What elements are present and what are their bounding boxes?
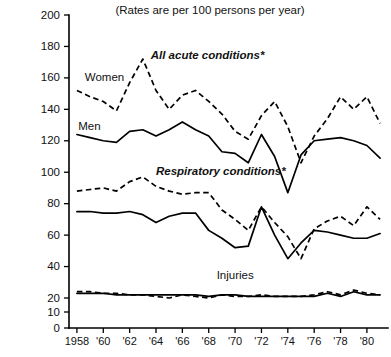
x-tick-label: '70 (228, 335, 242, 347)
chart-canvas: (Rates are per 100 persons per year) 010… (0, 0, 391, 357)
x-tick-label: '68 (202, 335, 216, 347)
y-tick-label: 180 (41, 40, 60, 52)
chart-annotation: Injuries (217, 269, 254, 281)
x-tick-label: 1958 (65, 335, 89, 347)
x-tick-label: '78 (333, 335, 347, 347)
y-tick-label: 20 (47, 292, 60, 304)
y-tick-label: 160 (41, 71, 60, 83)
x-tick-label: '76 (307, 335, 321, 347)
y-tick-label: 10 (47, 306, 60, 318)
y-tick-label: 0 (54, 322, 60, 334)
y-tick-label: 40 (47, 260, 60, 272)
chart-annotation: All acute conditions* (150, 49, 265, 61)
y-tick-label: 140 (41, 103, 60, 115)
chart-title: (Rates are per 100 persons per year) (115, 4, 304, 16)
acute-conditions-line-chart: (Rates are per 100 persons per year) 010… (0, 0, 391, 357)
y-tick-label: 200 (41, 9, 60, 21)
chart-annotation: Men (78, 120, 100, 132)
y-tick-label: 100 (41, 166, 60, 178)
x-tick-label: '64 (149, 335, 163, 347)
x-tick-label: '62 (122, 335, 136, 347)
x-tick-label: '72 (254, 335, 268, 347)
y-tick-label: 60 (47, 229, 60, 241)
chart-annotation: Respiratory conditions* (156, 165, 286, 177)
x-tick-label: '66 (175, 335, 189, 347)
y-tick-label: 80 (47, 197, 60, 209)
x-tick-label: '74 (281, 335, 295, 347)
x-tick-label: '60 (96, 335, 110, 347)
x-tick-label: '80 (360, 335, 374, 347)
y-tick-label: 120 (41, 134, 60, 146)
chart-annotation: Women (85, 71, 124, 83)
